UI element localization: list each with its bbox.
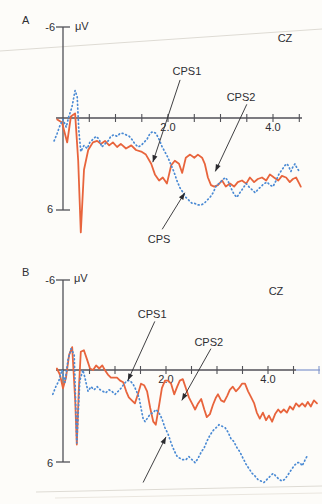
series-group — [54, 91, 301, 233]
panel-a-chart: A -6 μV CZ 6 2.04.0 CPS1CPS2CPS — [0, 0, 322, 252]
x-tick-label: 4.0 — [265, 121, 280, 133]
electrode-label: CZ — [278, 32, 293, 44]
annotation-label: CPS — [148, 233, 171, 245]
annotation-arrowhead — [153, 155, 158, 162]
x-ticks-group: 2.04.0 — [89, 114, 299, 133]
annotation-label: CPS1 — [173, 65, 202, 77]
x-tick-label: 4.0 — [260, 373, 275, 385]
panel-b: B -6 μV CZ 6 2.04.0 CPS1CPS2 — [0, 252, 322, 504]
panel-label: A — [22, 14, 30, 26]
panel-b-chart: B -6 μV CZ 6 2.04.0 CPS1CPS2 — [0, 252, 322, 504]
dotted-waveform-trace — [54, 91, 299, 205]
y-axis-unit-label: μV — [74, 272, 88, 284]
annotation-arrow-line — [143, 437, 166, 483]
annotations-group: CPS1CPS2 — [128, 308, 223, 482]
figure-page: A -6 μV CZ 6 2.04.0 CPS1CPS2CPS B -6 μV … — [0, 0, 322, 504]
y-axis-bottom-label: 6 — [47, 457, 53, 469]
panel-label: B — [22, 266, 29, 278]
annotation-label: CPS2 — [227, 91, 256, 103]
annotation-arrowhead — [128, 373, 133, 380]
scan-artifact-line — [55, 493, 322, 498]
y-axis-bottom-label: 6 — [47, 203, 53, 215]
y-axis-top-label: -6 — [45, 21, 55, 33]
annotation-arrowhead — [182, 393, 188, 400]
annotation-arrowhead — [161, 437, 167, 444]
y-axis-unit-label: μV — [75, 20, 89, 32]
scan-artifact-line — [36, 486, 322, 492]
electrode-label: CZ — [269, 285, 284, 297]
annotation-label: CPS2 — [194, 336, 223, 348]
annotation-arrow-line — [153, 80, 180, 162]
annotations-group: CPS1CPS2CPS — [148, 65, 256, 245]
annotation-arrowhead — [215, 164, 220, 172]
panel-a: A -6 μV CZ 6 2.04.0 CPS1CPS2CPS — [0, 0, 322, 252]
y-axis-top-label: -6 — [45, 274, 55, 286]
series-group — [53, 347, 317, 482]
annotation-arrow-line — [182, 349, 211, 401]
annotation-arrow-line — [128, 321, 155, 380]
solid-waveform-trace — [57, 113, 301, 232]
annotation-arrowhead — [179, 193, 185, 200]
annotation-label: CPS1 — [138, 308, 167, 320]
